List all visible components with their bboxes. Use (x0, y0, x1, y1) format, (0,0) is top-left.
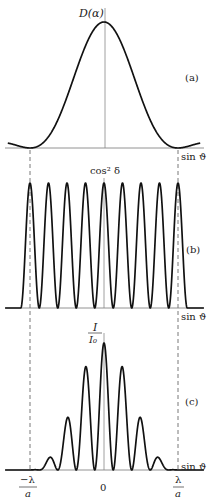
panel-a-x-label: sin ϑ (181, 151, 206, 162)
panel-c-intensity-curve (5, 343, 204, 470)
panel-b-panel-label: (b) (186, 244, 200, 255)
tick-right-denominator: a (175, 488, 181, 499)
tick-center-label: 0 (100, 482, 106, 493)
diffraction-figure: D(α) (a) sin ϑ cos² δ (b) sin ϑ I I₀ (c)… (0, 0, 207, 502)
panel-b: cos² δ (b) sin ϑ (5, 165, 206, 322)
panel-a-y-label: D(α) (78, 7, 104, 20)
tick-left-denominator: a (25, 488, 31, 499)
x-tick-labels: −λ a 0 λ a (19, 474, 184, 499)
panel-c-x-label: sin ϑ (181, 461, 206, 472)
tick-right-numerator: λ (175, 474, 182, 485)
panel-b-x-label: sin ϑ (181, 311, 206, 322)
panel-c-y-label-numerator: I (92, 321, 98, 334)
panel-b-y-label: cos² δ (90, 165, 120, 176)
panel-a: D(α) (a) sin ϑ (5, 7, 206, 162)
panel-c: I I₀ (c) sin ϑ (5, 321, 206, 472)
panel-a-envelope-curve (8, 22, 200, 148)
tick-left-numerator: −λ (20, 474, 35, 485)
panel-c-y-label-denominator: I₀ (88, 334, 97, 345)
panel-b-fringe-curve (5, 183, 204, 308)
panel-c-panel-label: (c) (185, 396, 199, 407)
panel-a-panel-label: (a) (185, 72, 199, 83)
